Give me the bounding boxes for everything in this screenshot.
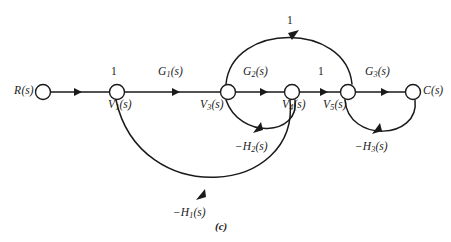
- arrowhead-v4-to-v1-arc: [196, 189, 206, 200]
- edge-label-unity-r-v1: 1: [111, 66, 117, 78]
- node-label-v1: V1(s): [108, 99, 132, 112]
- edge-label-unity-v4-v5: 1: [318, 66, 324, 78]
- node-label-v3: V3(s): [200, 99, 224, 112]
- edge-label-h1: −H1(s): [173, 207, 206, 220]
- arrowhead-v3-to-v4: [260, 88, 268, 96]
- node-c[interactable]: [406, 85, 421, 100]
- edge-label-g2: G2(s): [243, 66, 268, 79]
- edge-label-h3: −H3(s): [355, 141, 388, 154]
- node-r[interactable]: [36, 85, 51, 100]
- node-label-r: R(s): [14, 85, 34, 98]
- figure-caption: (c): [215, 221, 227, 232]
- signal-flow-graph-canvas: [0, 0, 451, 242]
- node-label-v5: V5(s): [323, 99, 347, 112]
- edge-label-g1: G1(s): [158, 66, 183, 79]
- node-label-v4: V4(s): [282, 99, 306, 112]
- arrowhead-v4-to-v5: [320, 88, 328, 96]
- arrowhead-v5-to-c: [381, 88, 389, 96]
- arrowhead-c-to-v5-arc: [372, 123, 382, 134]
- node-label-c: C(s): [423, 85, 443, 98]
- arrowhead-r-to-v1: [74, 88, 82, 96]
- arrowhead-v1-to-v3: [172, 88, 180, 96]
- edge-label-g3: G3(s): [365, 66, 390, 79]
- edge-label-h2: −H2(s): [235, 141, 268, 154]
- signal-flow-graph-figure: R(s) V1(s) V3(s) V4(s) V5(s) C(s) G1(s) …: [0, 0, 451, 242]
- edge-label-unity-top-arc: 1: [287, 15, 293, 27]
